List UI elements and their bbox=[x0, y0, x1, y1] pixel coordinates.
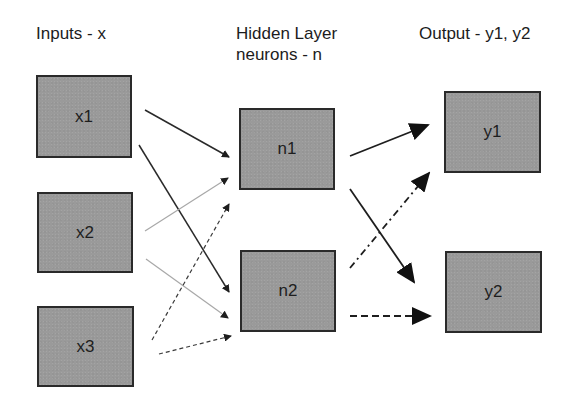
node-y2: y2 bbox=[445, 251, 542, 333]
node-label-y1: y1 bbox=[484, 122, 502, 142]
edge-x1-n2 bbox=[139, 145, 229, 292]
edge-x1-n1 bbox=[145, 110, 229, 157]
edge-n1-y1 bbox=[350, 125, 428, 156]
node-label-x2: x2 bbox=[76, 223, 94, 243]
node-label-n2: n2 bbox=[279, 281, 298, 301]
node-label-x3: x3 bbox=[77, 337, 95, 357]
edge-x3-n2 bbox=[159, 336, 231, 354]
node-n1: n1 bbox=[239, 108, 335, 190]
edge-x2-n2 bbox=[146, 259, 228, 318]
node-n2: n2 bbox=[240, 250, 336, 332]
node-x1: x1 bbox=[36, 75, 132, 158]
edge-n2-y1 bbox=[350, 173, 429, 268]
node-label-x1: x1 bbox=[75, 107, 93, 127]
node-label-n1: n1 bbox=[278, 139, 297, 159]
edge-n1-y2 bbox=[350, 189, 414, 282]
node-y1: y1 bbox=[444, 91, 541, 173]
node-x2: x2 bbox=[37, 192, 133, 273]
node-label-y2: y2 bbox=[485, 282, 503, 302]
node-x3: x3 bbox=[37, 306, 134, 387]
